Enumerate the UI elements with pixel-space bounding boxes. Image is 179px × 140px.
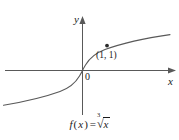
- y-axis-arrowhead: [79, 16, 85, 24]
- caption-equals: =: [89, 118, 97, 130]
- caption-close-paren: ): [83, 118, 89, 130]
- figure-caption: f(x)=3√x: [0, 117, 179, 131]
- origin-label: 0: [85, 72, 90, 82]
- figure-container: y x 0 (1, 1) f(x)=3√x: [0, 0, 179, 140]
- caption-radical: 3√x: [97, 117, 109, 131]
- x-axis-label: x: [168, 76, 173, 87]
- function-curve: [4, 35, 171, 106]
- x-axis: [5, 67, 176, 73]
- point-label: (1, 1): [96, 51, 117, 61]
- point-marker-1-1: [105, 44, 109, 48]
- y-axis-label: y: [74, 14, 79, 25]
- x-axis-arrowhead: [168, 67, 176, 73]
- radical-sign-icon: √: [97, 118, 104, 130]
